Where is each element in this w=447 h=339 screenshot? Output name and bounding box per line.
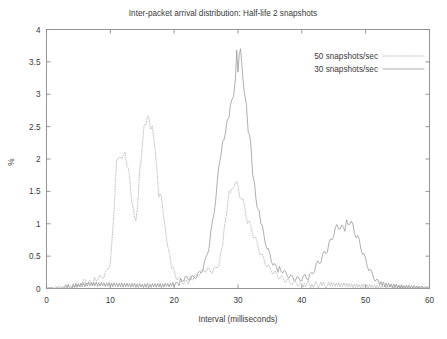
x-axis-label: Interval (milliseconds) xyxy=(198,315,277,324)
y-tick-label: 2 xyxy=(36,155,41,164)
x-tick-label: 30 xyxy=(233,296,243,305)
chart-figure: Inter-packet arrival distribution: Half-… xyxy=(0,0,447,339)
legend: 50 snapshots/sec 30 snapshots/sec xyxy=(314,52,424,74)
x-tick-label: 20 xyxy=(170,296,180,305)
y-tick-label: 4 xyxy=(36,26,41,35)
x-tick-label: 40 xyxy=(297,296,307,305)
chart-title-group: Inter-packet arrival distribution: Half-… xyxy=(129,9,317,18)
y-axis-label: % xyxy=(7,158,16,165)
y-tick-label: 3 xyxy=(36,90,41,99)
legend-label-0: 50 snapshots/sec xyxy=(314,52,378,61)
y-tick-label: 0 xyxy=(36,285,41,294)
y-tick-label: 1 xyxy=(36,220,41,229)
y-tick-label: 2.5 xyxy=(29,123,41,132)
x-tick-label: 50 xyxy=(361,296,371,305)
series-group xyxy=(47,49,430,289)
series-path-1 xyxy=(47,49,430,289)
legend-label-1: 30 snapshots/sec xyxy=(314,65,378,74)
x-tick-label: 60 xyxy=(425,296,435,305)
x-tick-label: 0 xyxy=(44,296,49,305)
y-tick-label: 3.5 xyxy=(29,58,41,67)
y-tick-label: 1.5 xyxy=(29,187,41,196)
y-tick-label: 0.5 xyxy=(29,252,41,261)
chart-canvas: Inter-packet arrival distribution: Half-… xyxy=(0,0,447,339)
chart-title: Inter-packet arrival distribution: Half-… xyxy=(129,9,317,18)
y-axis-label-group: % xyxy=(7,158,16,165)
x-tick-label: 10 xyxy=(106,296,116,305)
series-path-0 xyxy=(47,116,430,289)
x-axis-label-group: Interval (milliseconds) xyxy=(198,315,277,324)
